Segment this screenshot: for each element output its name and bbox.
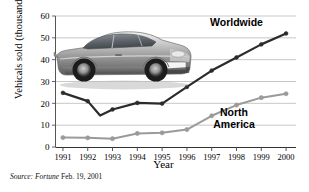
gridlines-group (56, 16, 297, 125)
source-date: Feb. 19, 2001 (61, 172, 102, 181)
series-label-north-america: America (213, 118, 255, 130)
data-point-worldwide (135, 101, 139, 105)
line-chart-svg: 0102030405060 19911992199319941995199619… (0, 0, 309, 160)
x-axis-title: Year (0, 158, 309, 170)
data-point-north-america (185, 127, 189, 131)
data-point-north-america (135, 131, 139, 135)
data-point-north-america (61, 136, 65, 140)
data-point-worldwide (235, 56, 239, 60)
series-label-worldwide: Worldwide (210, 16, 263, 28)
data-point-worldwide (210, 69, 214, 73)
data-point-worldwide (86, 99, 90, 103)
data-point-worldwide (185, 85, 189, 89)
x-axis-title-text: Year (135, 158, 173, 170)
data-point-north-america (259, 96, 263, 100)
data-point-north-america (86, 136, 90, 140)
y-tick-label-10: 10 (41, 120, 51, 130)
y-tick-label-50: 50 (41, 33, 51, 43)
y-tick-label-20: 20 (41, 99, 51, 109)
data-point-north-america (210, 114, 214, 118)
data-point-worldwide (259, 42, 263, 46)
source-publication: Fortune (35, 172, 59, 181)
y-axis-ticks-group: 0102030405060 (41, 11, 56, 152)
data-point-north-america (284, 92, 288, 96)
y-tick-label-0: 0 (45, 142, 50, 152)
series-line-north-america (63, 94, 286, 139)
data-point-worldwide (284, 32, 288, 36)
y-tick-label-40: 40 (41, 55, 51, 65)
data-point-worldwide (61, 91, 65, 95)
chart-figure: 0102030405060 19911992199319941995199619… (0, 0, 309, 192)
data-point-worldwide (111, 108, 115, 112)
data-point-north-america (160, 131, 164, 135)
source-label: Source: (10, 172, 33, 181)
y-axis-title: Vehicals sold (thousands) (13, 0, 24, 116)
source-note: Source: Fortune Feb. 19, 2001 (10, 172, 102, 181)
data-point-worldwide (160, 102, 164, 106)
series-label-north-america: North (220, 106, 248, 118)
y-tick-label-60: 60 (41, 11, 51, 21)
data-point-north-america (110, 137, 114, 141)
chart-plot-container: 0102030405060 19911992199319941995199619… (0, 0, 309, 160)
y-tick-label-30: 30 (41, 77, 51, 87)
